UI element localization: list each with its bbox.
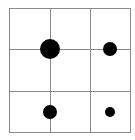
dot (43, 105, 57, 119)
dot (103, 42, 117, 56)
dot (105, 107, 115, 117)
dot (40, 39, 60, 59)
dot-grid-diagram (0, 0, 135, 140)
